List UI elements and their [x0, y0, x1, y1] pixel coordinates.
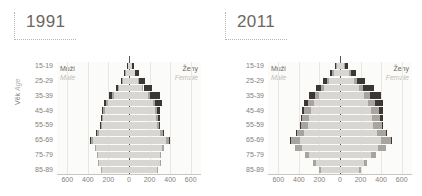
- bar-segment-mid: [359, 167, 361, 173]
- legend-female-2011: Ženy Female: [386, 65, 409, 82]
- bar-segment-mid: [100, 122, 102, 128]
- bar-segment-mid: [332, 70, 333, 76]
- x-axis-tick-label: 200: [314, 176, 326, 183]
- bar-segment-mid: [371, 152, 376, 158]
- bar-segment-dark: [351, 70, 356, 76]
- bar-segment-base: [309, 152, 340, 158]
- page-title: 1991: [26, 12, 76, 32]
- bar-segment-base: [340, 167, 359, 173]
- bar-segment-mid: [106, 100, 107, 106]
- bar-segment-base: [340, 92, 364, 98]
- y-axis-tick-label: 45-49: [246, 107, 264, 115]
- bar-segment-base: [129, 160, 160, 166]
- year-title-frame: 2011: [225, 12, 287, 40]
- bar-segment-dark: [139, 78, 145, 84]
- bar-segment-base: [96, 145, 129, 151]
- bar-segment-base: [324, 85, 340, 91]
- bar-segment-base: [129, 78, 138, 84]
- bar-segment-mid: [368, 100, 375, 106]
- gridline: [170, 62, 171, 174]
- bar-segment-mid: [295, 145, 302, 151]
- bar-segment-base: [309, 115, 340, 121]
- bar-segment-base: [114, 92, 129, 98]
- bar-segment-dark: [157, 107, 160, 113]
- y-axis-tick-label: 85-89: [35, 166, 53, 174]
- bar-segment-base: [98, 160, 129, 166]
- bar-segment-dark: [382, 122, 383, 128]
- bar-segment-dark: [345, 63, 347, 69]
- bar-segment-mid: [377, 130, 386, 136]
- bar-segment-dark: [330, 70, 332, 76]
- x-axis-tick-label: 400: [164, 176, 176, 183]
- bar-segment-mid: [372, 115, 380, 121]
- y-axis-tick-label: 45-49: [35, 107, 53, 115]
- gridline: [278, 62, 279, 174]
- bar-segment-base: [340, 107, 371, 113]
- bar-segment-mid: [160, 160, 161, 166]
- y-axis-tick-label: 55-59: [35, 121, 53, 129]
- bar-segment-base: [129, 145, 162, 151]
- bar-segment-mid: [321, 85, 324, 91]
- y-axis-tick-label: 55-59: [246, 121, 264, 129]
- legend-female-1991: Ženy Female: [175, 65, 198, 82]
- bar-segment-mid: [103, 107, 105, 113]
- bar-segment-dark: [386, 130, 387, 136]
- y-axis-tick-label: 25-29: [35, 77, 53, 85]
- bar-segment-dark: [135, 70, 138, 76]
- bar-segment-dark: [304, 100, 308, 106]
- bar-segment-base: [300, 137, 340, 143]
- y-axis-tick-label: 75-79: [246, 151, 264, 159]
- bar-segment-base: [108, 100, 129, 106]
- bar-segment-dark: [323, 78, 327, 84]
- bar-segment-base: [302, 145, 340, 151]
- bar-segment-mid: [296, 130, 304, 136]
- bar-segment-base: [340, 100, 368, 106]
- bar-segment-base: [340, 160, 364, 166]
- bar-segment-base: [321, 167, 340, 173]
- x-axis-tick-label: 600: [61, 176, 73, 183]
- gridline: [191, 62, 192, 174]
- panel-2011: 2011 85-8975-7965-6955-5945-4935-3925-29…: [211, 0, 422, 196]
- gridline: [299, 62, 300, 174]
- bar-segment-base: [129, 115, 156, 121]
- bar-segment-dark: [104, 100, 106, 106]
- bar-segment-dark: [102, 107, 103, 113]
- legend-female-label-en: Female: [175, 74, 198, 83]
- x-axis-tick-label: 200: [144, 176, 156, 183]
- y-axis-tick-label: 65-69: [246, 136, 264, 144]
- legend-female-label-cz: Ženy: [386, 65, 409, 74]
- bar-segment-dark: [370, 92, 380, 98]
- bar-segment-dark: [375, 100, 382, 106]
- bar-segment-mid: [381, 137, 391, 143]
- bar-segment-dark: [302, 107, 304, 113]
- bar-segment-base: [129, 137, 166, 143]
- bar-segment-dark: [159, 122, 160, 128]
- bar-segment-dark: [335, 63, 336, 69]
- bar-segment-dark: [144, 85, 153, 91]
- bar-segment-mid: [364, 160, 367, 166]
- x-axis-tick-label: 200: [103, 176, 115, 183]
- x-axis-tick-label: 400: [82, 176, 94, 183]
- x-axis-tick-label: 0: [127, 176, 131, 183]
- bar-segment-mid: [291, 137, 300, 143]
- bar-segment-base: [340, 137, 381, 143]
- bar-segment-mid: [327, 78, 329, 84]
- bar-segment-dark: [301, 115, 302, 121]
- x-axis-tick-label: 400: [293, 176, 305, 183]
- bar-segment-base: [129, 122, 157, 128]
- bar-segment-dark: [309, 92, 315, 98]
- x-axis-tick-label: 600: [272, 176, 284, 183]
- bar-segment-base: [340, 70, 349, 76]
- bar-segment-base: [304, 130, 340, 136]
- bar-segment-dark: [101, 115, 102, 121]
- bar-segment-base: [308, 122, 340, 128]
- y-axis-tick-label: 35-39: [246, 92, 264, 100]
- bar-segment-base: [129, 130, 160, 136]
- plot-area-2011: Muži Male Ženy Female: [268, 62, 412, 175]
- x-axis-tick-label: 600: [396, 176, 408, 183]
- bar-segment-mid: [157, 167, 158, 173]
- bar-segment-dark: [379, 107, 383, 113]
- bar-segment-mid: [373, 122, 381, 128]
- bar-segment-dark: [155, 100, 162, 106]
- x-axis-labels-1991: 6004002000200400600: [57, 176, 201, 190]
